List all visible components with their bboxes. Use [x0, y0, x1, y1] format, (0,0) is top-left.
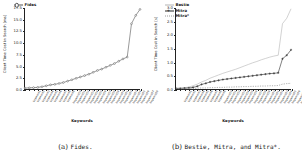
y-tickmark-a [23, 78, 25, 79]
data-point-marker [269, 73, 271, 75]
data-point-marker [200, 83, 202, 85]
data-point-marker [256, 74, 258, 76]
y-tick-b: 2.5 [167, 20, 173, 24]
subfigure-a: Client Time Cost in Search [ms] 0.02.55.… [0, 0, 151, 154]
legend-item-fides[interactable]: Fides [14, 3, 36, 7]
data-point-marker [126, 56, 128, 58]
data-point-marker [139, 9, 141, 11]
data-point-marker [264, 73, 266, 75]
y-tick-b: 0.5 [167, 74, 173, 78]
data-point-marker [122, 58, 124, 60]
data-point-marker [45, 85, 47, 87]
plot-lines-b [176, 8, 291, 89]
data-point-marker [67, 80, 69, 82]
data-point-marker [235, 77, 237, 79]
data-point-marker [277, 72, 279, 74]
data-point-marker [109, 65, 111, 67]
data-point-marker [217, 79, 219, 81]
data-point-marker [260, 74, 262, 76]
x-axis-label-b: Keywords [175, 118, 291, 123]
y-tickmark-b [174, 35, 176, 36]
data-point-marker [196, 85, 198, 87]
caption-a-tag: (a) [58, 143, 68, 151]
data-point-marker [88, 73, 90, 75]
data-point-marker [247, 75, 249, 77]
data-point-marker [84, 75, 86, 77]
y-tick-labels-b: 0.00.51.01.52.02.53.0 [159, 8, 174, 90]
data-point-marker [54, 83, 56, 85]
y-tickmark-a [23, 31, 25, 32]
x-tick-labels-a: keyword1keyword2keyword3keyword4keyword5… [24, 90, 140, 116]
y-tick-a: 7.5 [16, 53, 22, 57]
y-tick-a: 10.0 [14, 41, 22, 45]
x-tick-labels-b: keyword1keyword2keyword3keyword4keyword5… [175, 90, 291, 116]
caption-a: (a) Fides. [0, 143, 151, 151]
caption-a-text: Fides. [70, 143, 92, 150]
y-tickmark-a [23, 43, 25, 44]
data-point-marker [131, 23, 133, 25]
caption-b: (b) Bestie, Mitra, and Mitra*. [151, 143, 302, 151]
data-point-marker [71, 79, 73, 81]
data-point-marker [213, 80, 215, 82]
data-point-marker [58, 83, 60, 85]
y-tick-a: 12.5 [14, 29, 22, 33]
data-point-marker [205, 82, 207, 84]
data-point-marker [62, 82, 64, 84]
y-axis-label-a-text: Client Time Cost in Search [ms] [4, 15, 8, 73]
legend-label-bestie: Bestie [176, 3, 190, 7]
data-point-marker [252, 75, 254, 77]
y-tickmark-a [23, 8, 25, 9]
plot-area-a: Client Time Cost in Search [ms] 0.02.55.… [0, 0, 151, 131]
data-point-marker [41, 86, 43, 88]
data-point-marker [273, 72, 275, 74]
legend-label-fides: Fides [25, 3, 37, 7]
caption-b-text: Bestie, Mitra, and Mitra*. [185, 143, 282, 150]
legend-marker-fides-icon [14, 3, 23, 7]
y-tick-labels-a: 0.02.55.07.510.012.515.017.5 [8, 8, 23, 90]
data-point-marker [79, 76, 81, 78]
y-tick-b: 2.0 [167, 33, 173, 37]
y-tickmark-b [174, 63, 176, 64]
y-axis-label-b-text: Client Time Cost in Search [s] [155, 17, 159, 72]
axes-a [24, 8, 140, 90]
data-point-marker [239, 76, 241, 78]
legend-marker-mitra-icon: + [165, 9, 174, 13]
plot-area-b: Client Time Cost in Search [s] 0.00.51.0… [151, 0, 302, 131]
data-point-marker [50, 84, 52, 86]
data-point-marker [75, 77, 77, 79]
y-tick-b: 1.0 [167, 61, 173, 65]
data-point-marker [114, 63, 116, 65]
data-point-marker [92, 71, 94, 73]
data-point-marker [222, 78, 224, 80]
axes-b [175, 8, 291, 90]
legend-label-mitra-star: Mitra* [176, 14, 190, 18]
figure-row: Client Time Cost in Search [ms] 0.02.55.… [0, 0, 302, 154]
series-line-fides [25, 9, 140, 88]
plot-lines-a [25, 8, 140, 89]
data-point-marker [226, 78, 228, 80]
data-point-marker [97, 70, 99, 72]
y-tickmark-b [174, 49, 176, 50]
legend-a: Fides [14, 3, 36, 7]
data-point-marker [243, 76, 245, 78]
legend-item-mitra-star[interactable]: Mitra* [165, 14, 189, 18]
y-tickmark-a [23, 20, 25, 21]
y-tick-a: 5.0 [16, 65, 22, 69]
data-point-marker [105, 66, 107, 68]
y-tick-b: 1.5 [167, 47, 173, 51]
caption-b-tag: (b) [172, 143, 182, 151]
series-line-bestie [176, 9, 291, 88]
legend-marker-mitra-star-icon [165, 14, 174, 18]
data-point-marker [230, 77, 232, 79]
subfigure-b: Client Time Cost in Search [s] 0.00.51.0… [151, 0, 302, 154]
y-tick-a: 0.0 [16, 88, 22, 92]
y-tickmark-b [174, 76, 176, 77]
y-tickmark-a [23, 55, 25, 56]
legend-marker-bestie-icon [165, 3, 174, 7]
y-tick-b: 0.0 [167, 88, 173, 92]
data-point-marker [135, 15, 137, 17]
data-point-marker [37, 86, 39, 88]
x-axis-label-a: Keywords [24, 118, 140, 123]
y-tick-a: 15.0 [14, 18, 22, 22]
data-point-marker [209, 81, 211, 83]
